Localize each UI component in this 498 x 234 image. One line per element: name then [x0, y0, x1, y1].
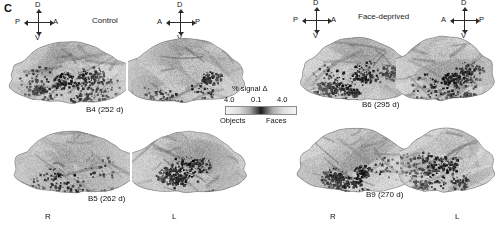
- hemisphere-label-deprived-left: L: [455, 212, 459, 221]
- hemisphere-label-control-left: L: [172, 212, 176, 221]
- compass-label-north: D: [313, 0, 318, 7]
- compass-label-west: P: [293, 16, 298, 24]
- compass-arrow-left-icon: [24, 20, 28, 26]
- compass-axis-horizontal: [305, 20, 329, 21]
- compass-arrow-left-icon: [450, 18, 454, 24]
- subject-label-b6: B6 (295 d): [362, 100, 399, 109]
- compass-label-west: A: [157, 18, 162, 26]
- legend-label-faces: Faces: [266, 116, 286, 125]
- figure-panel-c: C Control Face-deprived D V P A D V A P …: [0, 0, 498, 234]
- group-title-face-deprived: Face-deprived: [358, 12, 409, 21]
- legend-colorbar-gradient: [225, 106, 297, 115]
- group-title-control: Control: [92, 16, 118, 25]
- brain-section-b5-left: [132, 120, 248, 206]
- compass-label-north: D: [461, 0, 466, 7]
- legend-tick-high: 4.0: [277, 95, 287, 104]
- compass-arrow-up-icon: [36, 9, 42, 13]
- brain-section-b4-right: [8, 30, 126, 116]
- compass-axis-horizontal: [169, 22, 193, 23]
- compass-label-north: D: [35, 1, 40, 9]
- subject-label-b5: B5 (262 d): [88, 194, 125, 203]
- compass-label-east: A: [331, 16, 336, 24]
- compass-label-west: P: [15, 18, 20, 26]
- compass-axis-horizontal: [453, 20, 477, 21]
- legend-tick-low: 4.0: [224, 95, 234, 104]
- legend-title: % signal Δ: [232, 84, 267, 93]
- compass-label-east: P: [479, 16, 484, 24]
- panel-letter: C: [4, 2, 12, 14]
- compass-arrow-up-icon: [314, 7, 320, 11]
- colorbar-legend: % signal Δ 4.0 0.1 4.0 Objects Faces: [222, 84, 298, 128]
- hemisphere-label-control-right: R: [45, 212, 51, 221]
- subject-label-b9: B9 (270 d): [366, 190, 403, 199]
- brain-section-b6-left: [396, 24, 496, 114]
- compass-axis-horizontal: [27, 22, 51, 23]
- compass-arrow-up-icon: [462, 7, 468, 11]
- legend-label-objects: Objects: [220, 116, 245, 125]
- compass-arrow-left-icon: [166, 20, 170, 26]
- hemisphere-label-deprived-right: R: [330, 212, 336, 221]
- compass-arrow-up-icon: [178, 9, 184, 13]
- compass-label-north: D: [177, 1, 182, 9]
- legend-tick-mid: 0.1: [251, 95, 261, 104]
- brain-section-b9-left: [400, 116, 496, 206]
- compass-label-west: A: [441, 16, 446, 24]
- compass-arrow-left-icon: [302, 18, 306, 24]
- compass-label-east: A: [53, 18, 58, 26]
- legend-end-label-row: Objects Faces: [222, 116, 300, 127]
- compass-label-east: P: [195, 18, 200, 26]
- legend-tick-row: 4.0 0.1 4.0: [222, 95, 298, 105]
- subject-label-b4: B4 (252 d): [86, 105, 123, 114]
